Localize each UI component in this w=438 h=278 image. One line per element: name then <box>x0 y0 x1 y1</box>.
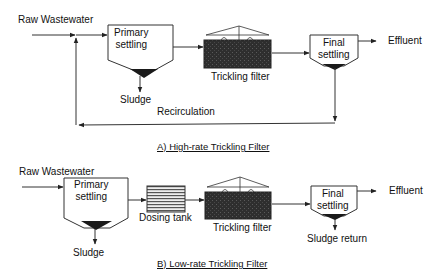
a-primary-line2: settling <box>114 39 148 51</box>
b-distributor-icon <box>207 177 269 194</box>
b-primary-line2: settling <box>74 191 108 203</box>
a-effluent-label: Effluent <box>388 36 422 46</box>
a-final-hopper <box>322 64 346 70</box>
a-trickling-filter-label: Trickling filter <box>211 72 270 82</box>
b-final-line1: Final <box>317 188 349 200</box>
a-recirc-return-line <box>79 123 335 125</box>
a-final-line2: settling <box>318 49 350 61</box>
b-diagram-title: B) Low-rate Trickling Filter <box>157 259 267 269</box>
a-diagram-title: A) High-rate Trickling Filter <box>157 142 269 152</box>
a-primary-hopper <box>130 69 158 78</box>
b-trickling-filter-media <box>205 192 271 219</box>
a-recirculation-label: Recirculation <box>157 107 215 117</box>
b-final-line2: settling <box>317 200 349 212</box>
b-primary-settling-label: Primary settling <box>74 179 108 203</box>
b-primary-line1: Primary <box>74 179 108 191</box>
b-sludge-label: Sludge <box>73 248 104 258</box>
b-dosing-tank-label: Dosing tank <box>139 213 192 223</box>
b-effluent-label: Effluent <box>389 186 423 196</box>
b-final-hopper <box>321 214 347 220</box>
process-flow-diagram <box>0 0 438 278</box>
a-final-line1: Final <box>318 37 350 49</box>
b-dosing-tank <box>147 186 185 212</box>
b-sludge-return-label: Sludge return <box>307 234 367 244</box>
a-final-settling-label: Final settling <box>318 37 350 61</box>
a-raw-wastewater-label: Raw Wastewater <box>18 15 93 25</box>
b-final-settling-label: Final settling <box>317 188 349 212</box>
a-primary-settling-label: Primary settling <box>114 27 148 51</box>
b-raw-wastewater-label: Raw Wastewater <box>19 167 94 177</box>
a-primary-line1: Primary <box>114 27 148 39</box>
a-trickling-filter-media <box>204 40 271 68</box>
b-trickling-filter-label: Trickling filter <box>213 223 272 233</box>
a-sludge-label: Sludge <box>120 95 151 105</box>
